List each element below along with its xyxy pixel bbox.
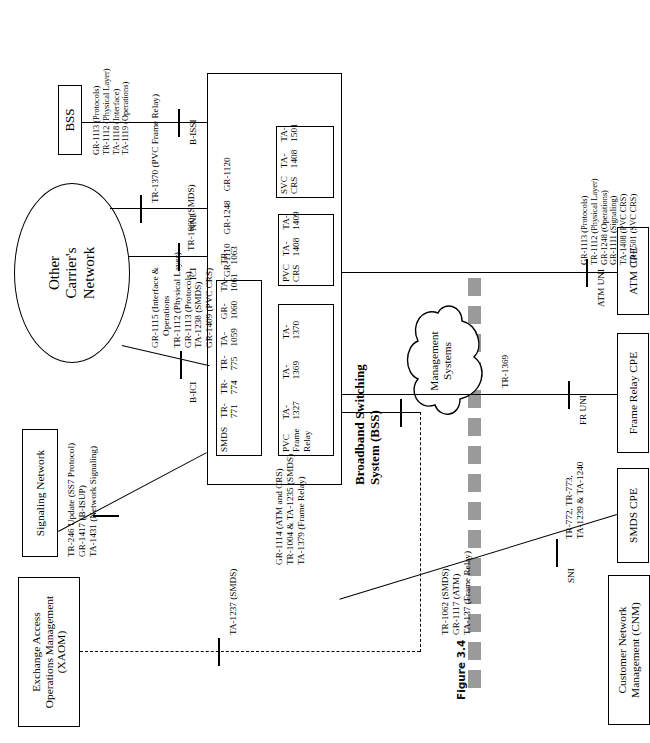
b-ici-spec-4: TA-1238 (SMDS) xyxy=(193,252,204,348)
interface-name-nni: NNI xyxy=(188,215,199,231)
mgmt-bss-spec-2: TA-1379 (Frame Relay) xyxy=(296,454,307,565)
signaling-spec-1: GR-1417 (B-ISUP) xyxy=(77,443,88,557)
link-b-ici xyxy=(122,345,210,367)
node-signaling-network[interactable]: Signaling Network xyxy=(22,429,58,557)
pvccrs-item-0: TA-1408 xyxy=(281,238,302,256)
pvcfr-title3: Relay xyxy=(302,431,312,452)
spec-list-nni: TR-1370 (PVC Frame Relay) xyxy=(150,94,161,203)
node-smds-cpe[interactable]: SMDS CPE xyxy=(617,468,649,563)
spec-list-sni: TR-772, TR-773, TA-1239 & TA-1240 xyxy=(564,462,586,539)
b-ici-name: B-ICI xyxy=(188,382,198,403)
mgmt-bss-spec-1: TR-1004 & TA-1235 (SMDS) xyxy=(285,454,296,565)
link-fr-uni xyxy=(342,394,617,395)
node-xaom-line3: (XAOM) xyxy=(55,631,68,673)
tick-b-issi xyxy=(178,109,180,137)
b-ici-spec-3: GR-1113 (Protocols) xyxy=(183,252,194,348)
node-signaling-network-label: Signaling Network xyxy=(34,450,47,536)
sni-spec-0: TR-772, TR-773, xyxy=(564,462,575,539)
interface-name-sni: SNI xyxy=(566,568,577,583)
atm-uni-spec-0: GR-1113 (Protocols) xyxy=(580,179,590,265)
node-other-carrier-network[interactable]: Other Carrier's Network xyxy=(14,183,130,363)
sni-spec-1: TA-1239 & TA-1240 xyxy=(575,462,586,539)
node-xaom[interactable]: Exchange Access Operations Management (X… xyxy=(18,577,80,727)
atm-uni-spec-5: TA-1501 (SVC CRS) xyxy=(629,179,639,265)
smds-item-0: TR-771 xyxy=(219,403,240,418)
nni-name: NNI xyxy=(188,215,198,231)
other-carrier-line3: Network xyxy=(81,247,98,300)
pvcfr-item-2: TA-1370 xyxy=(281,308,302,339)
bss-generic-specs: GR-1110 GR-1248 GR-1120 xyxy=(222,157,233,277)
spec-list-b-issi: GR-1113 (Protocols) TR-1112 (Physical La… xyxy=(92,69,131,155)
link-ici xyxy=(128,256,208,257)
bss-main-line2: System (BSS) xyxy=(367,364,382,485)
pvcfr-item-1: TA-1369 xyxy=(281,348,302,379)
b-ici-spec-5: GR-1409 (PVC CRS) xyxy=(204,252,215,348)
smds-item-2: TR-775 xyxy=(219,356,240,371)
svccrs-item-0: TA-1408 xyxy=(279,150,300,168)
b-issi-spec-3: TA-1119 (Operations) xyxy=(121,69,131,155)
cnm-line2: Management (CNM) xyxy=(629,602,642,698)
node-xaom-line1: Exchange Access xyxy=(30,612,43,691)
bss-inner-pvc-frame-relay[interactable]: PVC Frame Relay TA-1327 TA-1369 TA-1370 xyxy=(278,304,334,456)
b-issi-spec-1: TR-1112 (Physical Layer) xyxy=(102,69,112,155)
nni-spec-0: TR-1370 (PVC Frame Relay) xyxy=(150,94,161,203)
link-atm-uni xyxy=(342,272,617,273)
bss-main-line1: Broadband Switching xyxy=(352,364,367,485)
node-cnm[interactable]: Customer Network Management (CNM) xyxy=(608,575,650,725)
ici-name: ICI xyxy=(188,268,198,280)
node-management-systems[interactable]: Management Systems xyxy=(400,297,492,425)
spec-list-signaling: TR-246 Update (SS7 Protocol) GR-1417 (B-… xyxy=(66,443,99,557)
other-carrier-line2: Carrier's xyxy=(63,248,80,299)
smds-item-3: TA-1059 xyxy=(219,328,240,346)
node-bss-main-title: Broadband Switching System (BSS) xyxy=(352,364,383,485)
link-nni xyxy=(110,208,208,209)
other-carrier-line1: Other xyxy=(46,256,63,290)
bss-generic-1: GR-1248 xyxy=(222,200,233,234)
bss-inner-svc-crs[interactable]: SVC CRS TA-1408 TA-1501 xyxy=(276,126,334,198)
signaling-spec-2: TA-1431 (Network Signaling) xyxy=(88,443,99,557)
tick-b-ici xyxy=(180,351,182,379)
signaling-spec-0: TR-246 Update (SS7 Protocol) xyxy=(66,443,77,557)
bss-generic-2: GR-1120 xyxy=(222,157,233,191)
tick-fr-uni xyxy=(568,381,570,409)
spec-list-fr-uni: TR-1369 xyxy=(500,355,511,388)
pvcfr-title1: PVC xyxy=(281,434,291,452)
spec-xaom-link: TA-1237 (SMDS) xyxy=(228,569,239,635)
node-xaom-line2: Operations Management xyxy=(43,596,56,708)
sni-name: SNI xyxy=(566,568,576,583)
pvcfr-item-0: TA-1327 xyxy=(281,388,302,419)
mgmt-bss-spec-0: GR-1114 (ATM and CRS) xyxy=(274,454,285,565)
smds-cpe-label: SMDS CPE xyxy=(627,488,640,543)
bss-inner-pvc-crs[interactable]: PVC CRS TA-1408 TA-1409 xyxy=(278,214,334,286)
atm-uni-spec-2: GR-1248 (Operations) xyxy=(600,179,610,265)
atm-uni-spec-1: TR-1112 (Physical Layer) xyxy=(590,179,600,265)
b-issi-name: B-ISSI xyxy=(188,119,198,145)
tick-management-link xyxy=(400,399,402,427)
spec-list-b-ici: GR-1115 (Interface & Operations TR-1112 … xyxy=(150,252,215,348)
bss-inner-smds[interactable]: SMDS TR-771 TR-774 TR-775 TA-1059 GR-106… xyxy=(216,280,262,456)
atm-uni-spec-3: GR-1111 (Signaling) xyxy=(609,179,619,265)
smds-item-1: TR-774 xyxy=(219,379,240,394)
link-xaom-to-management xyxy=(80,651,420,652)
smds-title: SMDS xyxy=(219,427,240,452)
link-management-to-bss-v xyxy=(342,412,420,413)
atm-uni-name: ATM UNI xyxy=(596,269,606,307)
bss-generic-0: GR-1110 xyxy=(222,243,233,277)
pvccrs-title: PVC CRS xyxy=(281,264,302,282)
b-ici-spec-1: Operations xyxy=(161,252,172,348)
interface-name-b-ici: B-ICI xyxy=(188,382,199,403)
cnm-spec-2: TA-137 (Frame Relay) xyxy=(462,551,473,635)
svccrs-title: SVC CRS xyxy=(279,176,300,194)
frame-relay-cpe-label: Frame Relay CPE xyxy=(627,352,640,434)
interface-name-atm-uni: ATM UNI xyxy=(596,269,607,307)
b-issi-spec-0: GR-1113 (Protocols) xyxy=(92,69,102,155)
atm-uni-spec-4: TA-1408 (PVC CRS) xyxy=(619,179,629,265)
xaom-spec-0: TA-1237 (SMDS) xyxy=(228,569,238,635)
fr-uni-spec-0: TR-1369 xyxy=(500,355,511,388)
node-bss-peer[interactable]: BSS xyxy=(58,85,82,155)
node-frame-relay-cpe[interactable]: Frame Relay CPE xyxy=(617,333,649,453)
fr-uni-name: FR UNI xyxy=(578,395,588,425)
b-ici-spec-0: GR-1115 (Interface & xyxy=(150,252,161,348)
